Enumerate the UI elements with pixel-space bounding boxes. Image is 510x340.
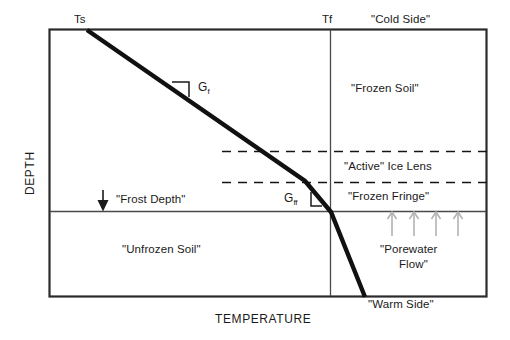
diagram-canvas <box>0 0 510 340</box>
cold-side-label: "Cold Side" <box>371 13 430 26</box>
gradient-frozen-fringe-label: Gff <box>284 192 297 208</box>
y-axis-label: DEPTH <box>24 151 38 195</box>
gradient-fringe-subscript: ff <box>293 198 297 207</box>
surface-temperature-label: Ts <box>74 13 86 26</box>
frost-depth-label: "Frost Depth" <box>116 193 186 206</box>
x-axis-label: TEMPERATURE <box>215 313 311 327</box>
zone-label-frozen-fringe: "Frozen Fringe" <box>348 190 429 203</box>
warm-side-label: "Warm Side" <box>368 298 434 311</box>
porewater-flow-label-line2: Flow" <box>399 258 428 271</box>
zone-label-active-ice-lens: "Active" Ice Lens <box>344 160 432 173</box>
frost-depth-arrow-icon <box>98 190 109 212</box>
porewater-flow-label-line1: "Porewater <box>380 243 438 256</box>
zone-label-frozen-soil: "Frozen Soil" <box>351 82 419 95</box>
porewater-flow-arrows-icon <box>388 212 463 236</box>
freezing-temperature-label: Tf <box>322 13 332 26</box>
frost-profile-figure: Ts Tf "Cold Side" "Warm Side" "Frozen So… <box>0 0 510 340</box>
temperature-profile-line <box>87 30 365 297</box>
gradient-frozen-subscript: f <box>207 87 209 96</box>
zone-label-unfrozen-soil: "Unfrozen Soil" <box>122 243 201 256</box>
gradient-frozen-soil-label: Gf <box>198 81 209 97</box>
